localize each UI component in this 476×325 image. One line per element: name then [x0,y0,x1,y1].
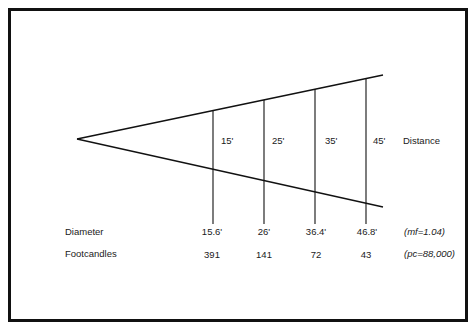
distance-label-25: 25' [272,135,284,147]
beam-upper-edge [77,75,383,139]
footcandles-value-35: 72 [311,249,322,261]
footcandles-note: (pc=88,000) [404,248,455,260]
diameter-value-45: 46.8' [357,226,377,238]
distance-label-15: 15' [221,135,233,147]
distance-axis-label: Distance [403,135,440,147]
diameter-note: (mf=1.04) [404,226,445,238]
distance-label-35: 35' [325,135,337,147]
diameter-row-label: Diameter [65,226,104,238]
beam-lower-edge [77,139,383,207]
beam-spread-diagram [0,0,476,325]
diameter-value-15: 15.6' [202,226,222,238]
diameter-value-35: 36.4' [306,226,326,238]
footcandles-value-45: 43 [361,249,372,261]
footcandles-row-label: Footcandles [65,248,117,260]
diameter-value-25: 26' [258,226,270,238]
distance-label-45: 45' [373,135,385,147]
footcandles-value-15: 391 [204,249,220,261]
footcandles-value-25: 141 [256,249,272,261]
